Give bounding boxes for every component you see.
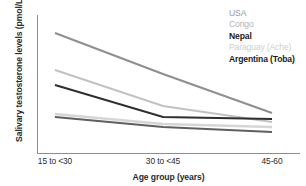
series-line — [55, 70, 272, 122]
legend-item: USA — [229, 8, 306, 19]
legend-item: Argentina (Toba) — [229, 54, 306, 65]
chart-legend: USACongoNepalParaguay (Ache)Argentina (T… — [229, 8, 306, 65]
legend-item: Paraguay (Ache) — [229, 42, 306, 53]
x-tick-label: 30 to <45 — [146, 156, 180, 166]
line-chart: Salivary testosterone levels (pmol/L) 15… — [0, 0, 306, 186]
legend-item: Nepal — [229, 31, 306, 42]
x-axis-title: Age group (years) — [37, 172, 300, 182]
x-axis-tick-labels: 15 to <3030 to <4545-60 — [37, 156, 300, 170]
x-tick-label: 45-60 — [262, 156, 283, 166]
legend-item: Congo — [229, 19, 306, 30]
x-tick-label: 15 to <30 — [38, 156, 72, 166]
